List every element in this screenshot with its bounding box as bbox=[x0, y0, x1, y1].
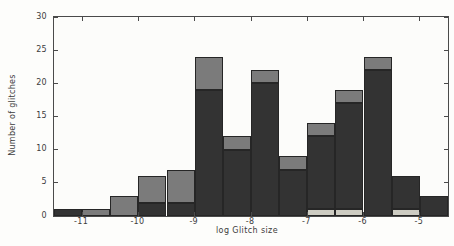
bar-segment-dark bbox=[335, 103, 363, 209]
bar-segment-medium-gray-top bbox=[307, 123, 335, 136]
y-tick bbox=[444, 216, 448, 217]
x-tick bbox=[251, 17, 252, 21]
x-axis-label: log Glitch size bbox=[172, 226, 322, 235]
bar-segment-light-gray-bottom bbox=[335, 209, 363, 216]
bar-segment-medium-gray-top bbox=[167, 170, 195, 203]
bar-segment-dark bbox=[138, 203, 166, 216]
bar-segment-medium-gray-top bbox=[223, 136, 251, 149]
plot-area bbox=[53, 16, 449, 217]
x-tick-label: -7 bbox=[294, 217, 318, 226]
y-tick bbox=[444, 50, 448, 51]
bar-segment-medium-gray-top bbox=[110, 196, 138, 216]
y-tick bbox=[54, 182, 58, 183]
y-tick-label: 20 bbox=[25, 78, 47, 87]
bar-segment-medium-gray-top bbox=[195, 57, 223, 90]
x-tick bbox=[307, 212, 308, 216]
y-tick bbox=[54, 149, 58, 150]
x-tick bbox=[419, 212, 420, 216]
x-tick-label: -5 bbox=[407, 217, 431, 226]
x-tick-label: -8 bbox=[238, 217, 262, 226]
y-tick bbox=[444, 182, 448, 183]
x-tick bbox=[82, 17, 83, 21]
x-tick bbox=[307, 17, 308, 21]
y-axis-label: Number of glitches bbox=[8, 69, 18, 161]
bar-segment-medium-gray-top bbox=[335, 90, 363, 103]
y-tick bbox=[54, 17, 58, 18]
bar-segment-dark bbox=[364, 70, 392, 216]
bar-segment-dark bbox=[279, 170, 307, 216]
bar-segment-dark bbox=[167, 203, 195, 216]
bar-segment-dark bbox=[307, 136, 335, 209]
y-tick bbox=[54, 116, 58, 117]
bar-segment-dark bbox=[223, 150, 251, 216]
bar-segment-medium-gray-top bbox=[82, 209, 110, 216]
x-tick bbox=[419, 17, 420, 21]
x-tick bbox=[138, 17, 139, 21]
y-tick-label: 5 bbox=[25, 177, 47, 186]
x-tick bbox=[363, 212, 364, 216]
bar-segment-dark bbox=[251, 83, 279, 216]
y-tick-label: 30 bbox=[25, 12, 47, 21]
bar-segment-dark bbox=[392, 176, 420, 209]
y-tick bbox=[444, 17, 448, 18]
y-tick bbox=[444, 83, 448, 84]
y-tick-label: 15 bbox=[25, 111, 47, 120]
x-tick bbox=[138, 212, 139, 216]
x-tick bbox=[363, 17, 364, 21]
x-tick-label: -6 bbox=[351, 217, 375, 226]
x-tick bbox=[251, 212, 252, 216]
y-tick bbox=[444, 116, 448, 117]
bar-segment-medium-gray-top bbox=[251, 70, 279, 83]
bar-segment-medium-gray-top bbox=[138, 176, 166, 203]
y-tick-label: 25 bbox=[25, 45, 47, 54]
x-tick bbox=[82, 212, 83, 216]
x-tick bbox=[194, 17, 195, 21]
histogram-figure: log Glitch size Number of glitches -11-1… bbox=[0, 0, 454, 246]
x-tick-label: -11 bbox=[69, 217, 93, 226]
x-tick bbox=[194, 212, 195, 216]
y-tick bbox=[54, 50, 58, 51]
bar-segment-dark bbox=[420, 196, 448, 216]
bar-segment-light-gray-bottom bbox=[307, 209, 335, 216]
y-tick bbox=[54, 83, 58, 84]
bar-segment-medium-gray-top bbox=[279, 156, 307, 169]
x-tick-label: -10 bbox=[125, 217, 149, 226]
bar-segment-dark bbox=[54, 209, 82, 216]
y-tick bbox=[444, 149, 448, 150]
bar-segment-medium-gray-top bbox=[364, 57, 392, 70]
bar-segment-dark bbox=[195, 90, 223, 216]
y-tick-label: 0 bbox=[25, 211, 47, 220]
y-tick bbox=[54, 216, 58, 217]
bar-segment-light-gray-bottom bbox=[392, 209, 420, 216]
y-tick-label: 10 bbox=[25, 144, 47, 153]
x-tick-label: -9 bbox=[182, 217, 206, 226]
